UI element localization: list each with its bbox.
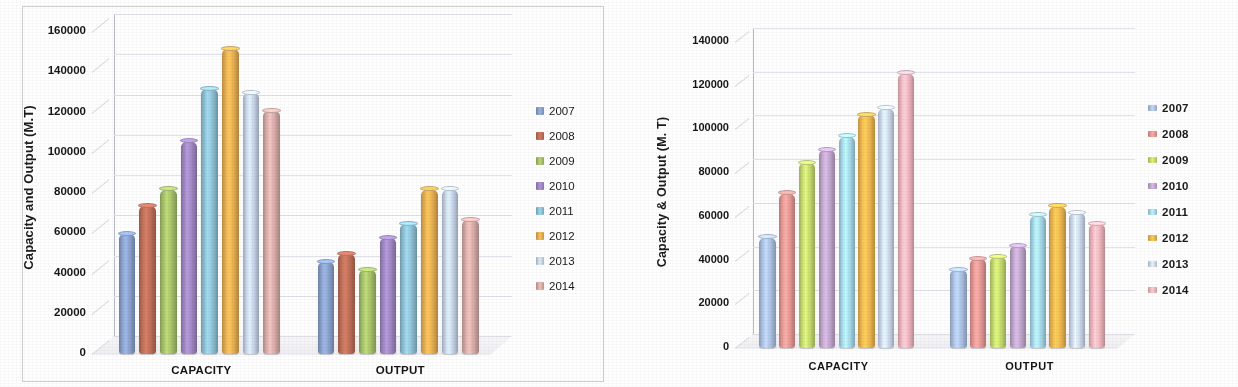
- y-axis-tick-label: 40000: [663, 253, 729, 265]
- legend-swatch-icon: [1148, 105, 1157, 111]
- y-axis-tick: [735, 206, 750, 218]
- legend-item-2014[interactable]: 2014: [1148, 277, 1189, 303]
- bar-cap: [949, 267, 967, 272]
- bar-cap: [838, 133, 856, 138]
- bar-cap: [221, 46, 240, 51]
- charts-page: Capacity and Output (M.T) 20072008200920…: [0, 0, 1238, 387]
- bar-cap: [159, 186, 178, 191]
- legend-item-2009[interactable]: 2009: [1148, 147, 1189, 173]
- bar-cap: [138, 203, 157, 208]
- legend-item-2012[interactable]: 2012: [1148, 225, 1189, 251]
- legend-swatch-icon: [1148, 235, 1157, 241]
- bar-cap: [358, 267, 377, 272]
- gridline: [114, 135, 512, 136]
- bar-capacity-2011: [201, 88, 218, 354]
- legend-item-2013[interactable]: 2013: [1148, 251, 1189, 277]
- bar-cap: [857, 112, 875, 117]
- bar-capacity-2012: [858, 114, 874, 348]
- y-axis-tick-label: 20000: [663, 296, 729, 308]
- legend-item-2011[interactable]: 2011: [536, 198, 575, 223]
- bar-cap: [242, 90, 261, 95]
- y-axis-tick: [92, 58, 110, 73]
- legend-item-2014[interactable]: 2014: [536, 273, 575, 298]
- bar-capacity-2010: [181, 141, 198, 354]
- y-axis-tick: [92, 300, 110, 315]
- legend-item-2012[interactable]: 2012: [536, 223, 575, 248]
- legend-label: 2013: [1162, 258, 1189, 270]
- legend-item-2009[interactable]: 2009: [536, 148, 575, 173]
- legend-label: 2008: [1162, 128, 1189, 140]
- legend-label: 2008: [549, 130, 575, 142]
- legend-item-2008[interactable]: 2008: [1148, 121, 1189, 147]
- bar-cap: [818, 147, 836, 152]
- legend-swatch-icon: [536, 207, 544, 215]
- gridline: [114, 175, 512, 176]
- legend-swatch-icon: [1148, 157, 1157, 163]
- bar-capacity-2010: [819, 149, 835, 348]
- y-axis-tick-label: 60000: [20, 225, 86, 237]
- bar-output-2009: [990, 256, 1006, 348]
- bar-output-2008: [338, 253, 355, 354]
- y-axis-tick: [92, 179, 110, 194]
- y-axis-tick-label: 80000: [663, 165, 729, 177]
- bar-output-2013: [1069, 212, 1085, 348]
- y-axis-tick-label: 140000: [663, 34, 729, 46]
- bar-cap: [399, 221, 418, 226]
- y-axis-tick-label: 160000: [20, 24, 86, 36]
- legend-item-2010[interactable]: 2010: [1148, 173, 1189, 199]
- legend-swatch-icon: [1148, 261, 1157, 267]
- legend-label: 2012: [549, 230, 575, 242]
- legend-label: 2011: [1162, 206, 1188, 218]
- legend-label: 2010: [549, 180, 575, 192]
- bar-cap: [461, 217, 480, 222]
- legend-swatch-icon: [536, 157, 544, 165]
- legend-item-2007[interactable]: 2007: [536, 98, 575, 123]
- y-axis-tick-label: 100000: [663, 121, 729, 133]
- bar-cap: [758, 234, 776, 239]
- x-axis-label-output: OUTPUT: [330, 364, 470, 376]
- gridline: [753, 72, 1135, 73]
- bar-cap: [1009, 243, 1027, 248]
- bar-cap: [379, 235, 398, 240]
- bar-output-2007: [318, 261, 335, 354]
- bar-capacity-2009: [160, 189, 177, 354]
- bar-capacity-2008: [779, 193, 795, 348]
- bar-capacity-2007: [119, 233, 136, 354]
- legend-swatch-icon: [1148, 209, 1157, 215]
- bar-output-2011: [400, 223, 417, 354]
- y-axis-tick-label: 100000: [20, 145, 86, 157]
- bar-cap: [262, 108, 281, 113]
- plot-area-right: [735, 28, 1135, 348]
- bar-output-2013: [442, 189, 459, 354]
- bar-output-2009: [359, 269, 376, 354]
- y-axis-tick: [92, 219, 110, 234]
- bar-output-2012: [1049, 206, 1065, 348]
- gridline: [114, 54, 512, 55]
- legend-swatch-icon: [1148, 131, 1157, 137]
- bar-capacity-2012: [222, 48, 239, 354]
- y-axis-tick: [735, 250, 750, 262]
- y-axis-tick: [735, 162, 750, 174]
- legend-swatch-icon: [536, 257, 544, 265]
- gridline: [753, 115, 1135, 116]
- legend-item-2010[interactable]: 2010: [536, 173, 575, 198]
- bar-cap: [1088, 221, 1106, 226]
- legend-item-2013[interactable]: 2013: [536, 248, 575, 273]
- legend-swatch-icon: [536, 182, 544, 190]
- bar-output-2012: [421, 189, 438, 354]
- bar-output-2014: [462, 219, 479, 354]
- bar-capacity-2013: [878, 108, 894, 348]
- legend-swatch-icon: [536, 107, 544, 115]
- bar-output-2011: [1030, 215, 1046, 348]
- legend-left: 20072008200920102011201220132014: [536, 98, 575, 298]
- bar-output-2010: [380, 237, 397, 354]
- legend-item-2008[interactable]: 2008: [536, 123, 575, 148]
- bar-output-2014: [1089, 223, 1105, 348]
- gridline: [753, 28, 1135, 29]
- chart-panel-right: Capacity & Output (M. T) 200720082009201…: [620, 0, 1238, 387]
- bar-cap: [180, 138, 199, 143]
- legend-item-2011[interactable]: 2011: [1148, 199, 1189, 225]
- bar-capacity-2013: [243, 92, 260, 354]
- legend-right: 20072008200920102011201220132014: [1148, 95, 1189, 303]
- legend-item-2007[interactable]: 2007: [1148, 95, 1189, 121]
